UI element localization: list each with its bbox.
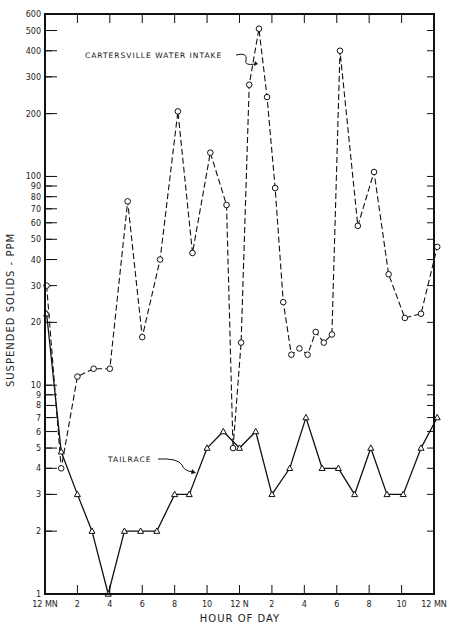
intake-data-point [329, 332, 335, 338]
plot-frame [45, 14, 434, 594]
intake-data-point [418, 311, 424, 317]
x-tick-label: 10 [396, 600, 406, 609]
intake-data-point [321, 340, 327, 346]
intake-data-point [434, 244, 440, 250]
intake-series-line [47, 29, 438, 469]
y-tick-label: 600 [26, 10, 41, 19]
x-tick-label: 6 [334, 600, 339, 609]
tailrace-data-point [303, 414, 309, 419]
intake-data-point [75, 374, 81, 380]
tailrace-data-point [368, 445, 374, 450]
intake-data-point [157, 257, 163, 263]
intake-data-point [190, 250, 196, 256]
intake-data-point [256, 26, 262, 32]
x-tick-label: 4 [107, 600, 112, 609]
intake-data-point [355, 223, 361, 229]
intake-data-point [297, 346, 303, 352]
tailrace-data-point [220, 428, 226, 433]
intake-data-point [238, 340, 244, 346]
x-tick-label: 8 [172, 600, 177, 609]
y-tick-label: 200 [26, 110, 41, 119]
x-axis-title: HOUR OF DAY [200, 613, 280, 624]
tailrace-data-point [434, 414, 440, 419]
y-tick-label: 300 [26, 73, 41, 82]
y-tick-label: 70 [31, 205, 41, 214]
x-tick-label: 2 [269, 600, 274, 609]
x-tick-label: 10 [202, 600, 212, 609]
intake-data-point [337, 48, 343, 54]
y-tick-label: 5 [36, 444, 41, 453]
y-tick-label: 40 [31, 256, 41, 265]
intake-data-point [139, 334, 145, 340]
x-tick-label: 6 [140, 600, 145, 609]
y-axis-ticks: 1234567891020304050607080901002003004005… [26, 10, 434, 599]
intake-data-point [230, 445, 236, 451]
tailrace-data-point [58, 449, 64, 454]
x-axis-ticks: 12 MN24681012 N24681012 MN [32, 14, 447, 609]
intake-data-point [289, 352, 295, 358]
tailrace-annotation-label: TAILRACE [107, 455, 151, 464]
y-tick-label: 10 [31, 381, 41, 390]
intake-data-point [208, 150, 214, 156]
y-tick-label: 9 [36, 391, 41, 400]
intake-data-point [246, 82, 252, 88]
intake-arrowhead-icon [254, 61, 258, 66]
intake-data-point [107, 366, 113, 372]
y-tick-label: 6 [36, 428, 41, 437]
y-tick-label: 20 [31, 318, 41, 327]
x-tick-label: 8 [367, 600, 372, 609]
intake-data-point [280, 299, 286, 305]
tailrace-data-point [89, 528, 95, 533]
tailrace-data-point [74, 491, 80, 496]
intake-data-point [264, 94, 270, 100]
intake-annotation-label: CARTERSVILLE WATER INTAKE [85, 51, 222, 60]
tailrace-data-point [418, 445, 424, 450]
intake-data-point [272, 185, 278, 191]
x-tick-label: 12 N [230, 600, 249, 609]
intake-data-point [58, 466, 64, 472]
intake-data-point [402, 315, 408, 321]
y-tick-label: 2 [36, 527, 41, 536]
x-tick-label: 12 MN [32, 600, 58, 609]
y-tick-label: 80 [31, 193, 41, 202]
intake-data-point [313, 329, 319, 335]
y-tick-label: 60 [31, 219, 41, 228]
y-tick-label: 100 [26, 172, 41, 181]
tailrace-annotation-arrow [158, 459, 193, 472]
tailrace-data-point [287, 465, 293, 470]
intake-data-point [305, 352, 311, 358]
y-axis-title: SUSPENDED SOLIDS - PPM [5, 233, 16, 387]
y-tick-label: 1 [36, 590, 41, 599]
y-tick-label: 4 [36, 464, 41, 473]
y-tick-label: 400 [26, 47, 41, 56]
y-tick-label: 30 [31, 282, 41, 291]
tailrace-series-line [47, 314, 438, 594]
y-tick-label: 500 [26, 27, 41, 36]
y-tick-label: 90 [31, 182, 41, 191]
tailrace-arrowhead-icon [191, 469, 196, 474]
y-tick-label: 50 [31, 235, 41, 244]
intake-data-point [175, 109, 181, 115]
x-tick-label: 4 [302, 600, 307, 609]
y-tick-label: 8 [36, 401, 41, 410]
intake-data-point [371, 169, 377, 175]
y-tick-label: 3 [36, 490, 41, 499]
intake-data-point [125, 199, 131, 205]
intake-data-point [386, 271, 392, 277]
x-tick-label: 2 [75, 600, 80, 609]
y-tick-label: 7 [36, 414, 41, 423]
intake-annotation-arrow [236, 54, 255, 64]
series-layer [44, 26, 441, 596]
intake-data-point [224, 202, 230, 208]
suspended-solids-chart: 1234567891020304050607080901002003004005… [0, 0, 456, 629]
intake-data-point [91, 366, 97, 372]
tailrace-data-point [253, 428, 259, 433]
x-tick-label: 12 MN [421, 600, 447, 609]
